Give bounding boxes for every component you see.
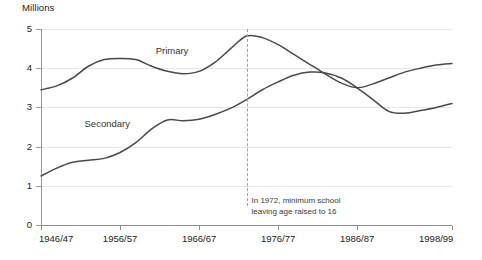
event-dashed-line [247,29,248,206]
series-lines [0,0,482,260]
event-annotation-text: In 1972, minimum school leaving age rais… [252,196,392,217]
line-chart: Millions 012345 1946/471956/571966/67197… [0,0,482,260]
series-label-primary: Primary [154,45,191,56]
series-label-secondary: Secondary [83,118,132,129]
